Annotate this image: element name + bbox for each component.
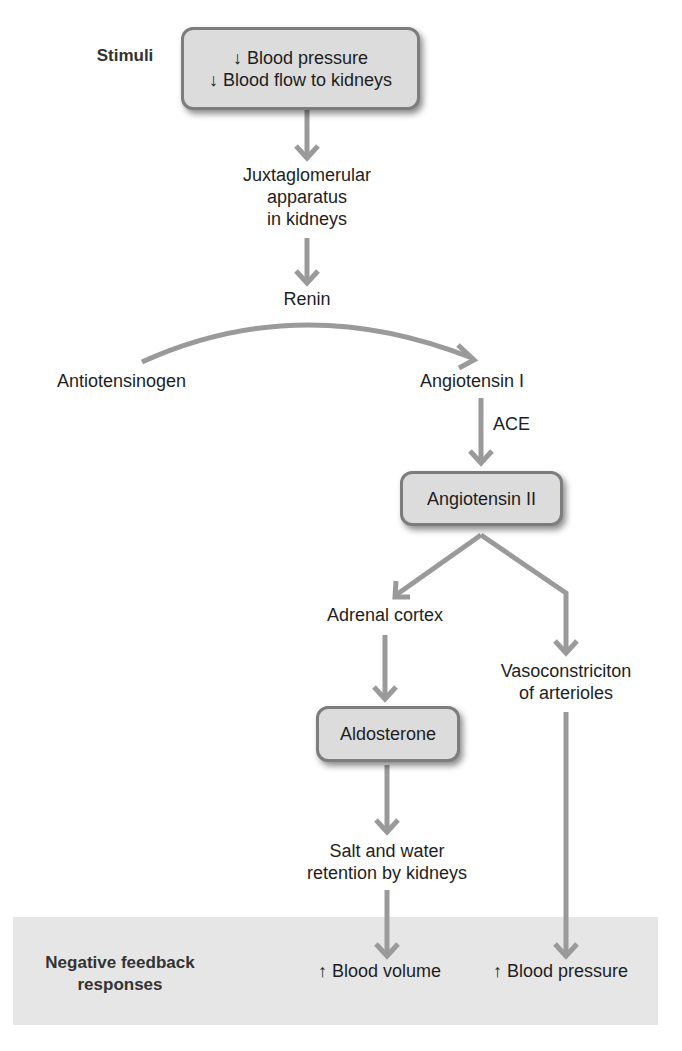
renin-node: Renin <box>257 288 357 310</box>
vasoconstriction-line-1: Vasoconstriciton <box>486 660 646 682</box>
salt-water-line-1: Salt and water <box>292 840 482 862</box>
arrow-adrenal-to-aldosterone <box>374 635 396 699</box>
negative-feedback-label: Negative feedback responses <box>25 952 215 996</box>
salt-water-line-2: retention by kidneys <box>292 862 482 884</box>
aldosterone-box: Aldosterone <box>316 706 460 762</box>
jga-line-2: apparatus <box>217 186 397 208</box>
arrow-angiotensinogen-to-angiotensin-i <box>142 325 474 368</box>
feedback-line-1: Negative feedback <box>25 952 215 974</box>
stimulus-line-1: ↓ Blood pressure <box>233 47 368 69</box>
stimuli-label: Stimuli <box>80 45 170 67</box>
angiotensin-i-node: Angiotensin I <box>420 370 524 392</box>
jga-line-3: in kidneys <box>217 208 397 230</box>
arrow-jga-to-renin <box>296 238 318 283</box>
arrow-stimulus-to-jga <box>296 110 318 158</box>
arrow-angiotensin-i-to-ii <box>470 398 492 463</box>
arrow-aldosterone-to-salt-water <box>376 765 398 832</box>
vasoconstriction-node: Vasoconstriciton of arterioles <box>486 660 646 704</box>
arrow-angiotensin-ii-to-vasoconstriction <box>481 535 577 653</box>
jga-line-1: Juxtaglomerular <box>217 164 397 186</box>
arrow-salt-water-to-blood-volume <box>376 890 398 956</box>
juxtaglomerular-node: Juxtaglomerular apparatus in kidneys <box>217 164 397 230</box>
feedback-line-2: responses <box>25 974 215 996</box>
stimulus-line-2: ↓ Blood flow to kidneys <box>209 69 392 91</box>
raas-diagram: Stimuli ↓ Blood pressure ↓ Blood flow to… <box>0 0 682 1051</box>
angiotensinogen-node: Antiotensinogen <box>57 370 186 392</box>
stimulus-box: ↓ Blood pressure ↓ Blood flow to kidneys <box>181 27 420 110</box>
vasoconstriction-line-2: of arterioles <box>486 682 646 704</box>
aldosterone-label: Aldosterone <box>340 723 436 745</box>
blood-pressure-increase-node: ↑ Blood pressure <box>493 960 628 982</box>
adrenal-cortex-node: Adrenal cortex <box>310 604 460 626</box>
angiotensin-ii-label: Angiotensin II <box>427 488 536 510</box>
arrow-connectors <box>0 0 682 1051</box>
angiotensin-ii-box: Angiotensin II <box>400 471 563 526</box>
blood-volume-node: ↑ Blood volume <box>318 960 441 982</box>
salt-water-retention-node: Salt and water retention by kidneys <box>292 840 482 884</box>
arrow-angiotensin-ii-to-adrenal <box>395 535 481 597</box>
arrow-vasoconstriction-to-blood-pressure <box>555 712 577 956</box>
ace-enzyme-label: ACE <box>493 413 530 435</box>
